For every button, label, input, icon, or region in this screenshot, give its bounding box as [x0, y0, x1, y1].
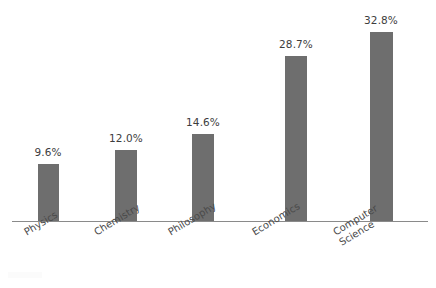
x-axis-tick-labels: Physics Chemistry Philosophy Economics C… [0, 222, 436, 288]
value-label-physics: 9.6% [34, 146, 61, 158]
value-label-computer-science: 32.8% [364, 14, 398, 26]
value-label-chemistry: 12.0% [109, 132, 143, 144]
value-label-economics: 28.7% [279, 38, 313, 50]
value-label-philosophy: 14.6% [186, 116, 220, 128]
bar-computer-science[interactable] [370, 32, 393, 222]
plot-area [12, 6, 428, 222]
footer-artifact [8, 272, 42, 278]
bar-economics[interactable] [285, 56, 307, 222]
bar-chart: 9.6% 12.0% 14.6% 28.7% 32.8% Physics Che… [0, 0, 436, 288]
